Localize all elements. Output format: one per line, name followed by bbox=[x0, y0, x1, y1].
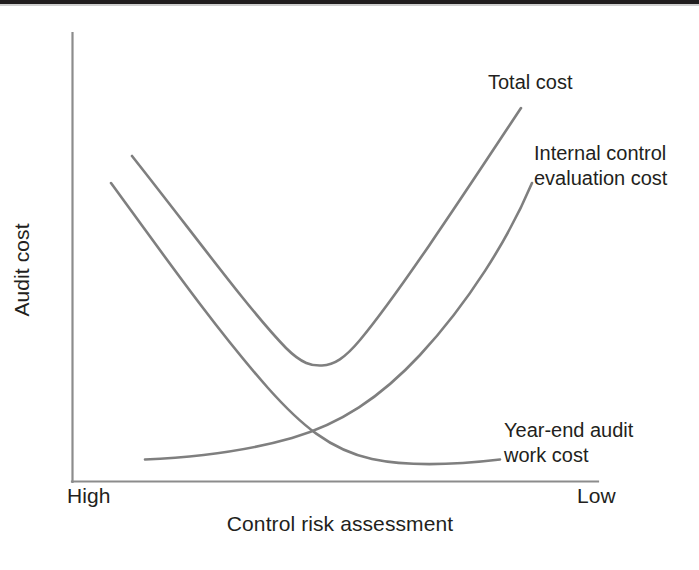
series-line-year-end-audit bbox=[145, 183, 532, 460]
y-axis-title: Audit cost bbox=[10, 200, 34, 340]
series-label-internal-control: Internal control evaluation cost bbox=[534, 141, 667, 191]
series-line-total-cost bbox=[132, 108, 521, 366]
x-axis-tick-label-low: Low bbox=[577, 484, 616, 508]
chart-figure: Audit cost Control risk assessment High … bbox=[0, 0, 699, 570]
x-axis-tick-label-high: High bbox=[67, 484, 111, 508]
series-label-year-end-audit: Year-end audit work cost bbox=[504, 418, 633, 468]
x-axis-title: Control risk assessment bbox=[195, 512, 485, 536]
series-label-total-cost: Total cost bbox=[488, 70, 572, 95]
